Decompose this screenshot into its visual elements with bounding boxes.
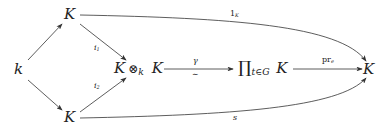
tensor-sub: k: [138, 66, 144, 77]
node-product: ∏t∈G K: [238, 59, 288, 77]
product-sub: t∈G: [252, 66, 270, 77]
label-iso: ∼: [192, 71, 199, 79]
product-k: K: [276, 59, 287, 77]
node-bottom-k: K: [64, 110, 75, 125]
node-top-k: K: [64, 7, 75, 22]
arrow-k-to-top-k: [28, 24, 62, 60]
node-k: k: [14, 62, 23, 77]
tensor-left: K: [114, 59, 125, 77]
arrow-s: [80, 78, 366, 118]
product-symbol: ∏: [238, 57, 252, 77]
arrow-k-to-bottom-k: [28, 80, 62, 110]
arrow-i2: [80, 78, 126, 112]
tensor-op: ⊗: [128, 62, 138, 76]
label-i2: i2: [94, 82, 100, 90]
label-s: s: [233, 114, 237, 122]
label-identity: 1K: [230, 10, 239, 18]
diagram-arrows: [0, 0, 388, 132]
label-pr-e: pre: [322, 56, 334, 64]
label-gamma: γ: [193, 57, 198, 65]
node-tensor-product: K⊗k K: [114, 61, 163, 77]
arrow-i1: [80, 24, 126, 60]
tensor-right: K: [152, 59, 163, 77]
label-i1: i1: [94, 44, 100, 52]
node-target-k: K: [363, 62, 374, 77]
